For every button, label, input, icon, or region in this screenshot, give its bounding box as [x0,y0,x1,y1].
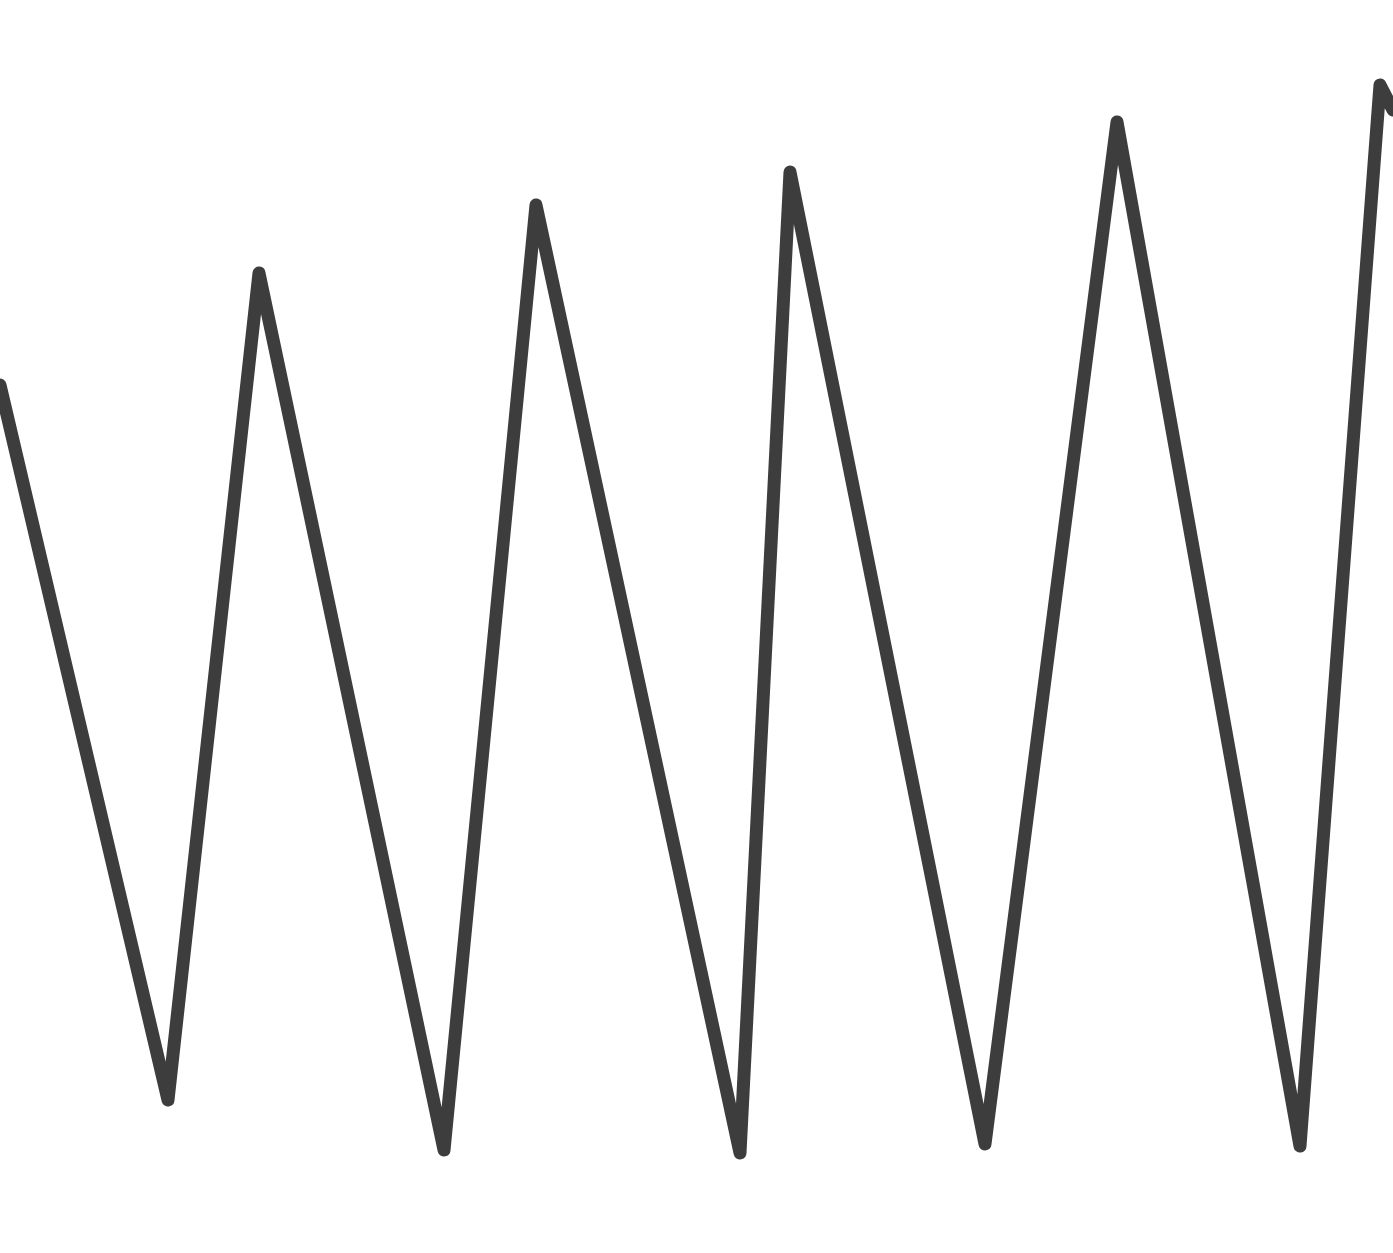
background [0,0,1393,1253]
zigzag-drawing-canvas [0,0,1393,1253]
